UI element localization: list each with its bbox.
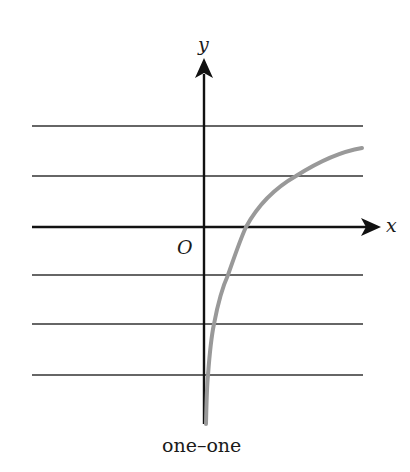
diagram-caption: one–one (162, 434, 241, 456)
x-axis-label: x (386, 214, 397, 236)
graph-canvas (0, 0, 410, 472)
log-curve (206, 148, 362, 424)
y-axis-label: y (198, 33, 209, 55)
horizontal-lines (32, 126, 363, 375)
origin-label: O (177, 236, 193, 258)
